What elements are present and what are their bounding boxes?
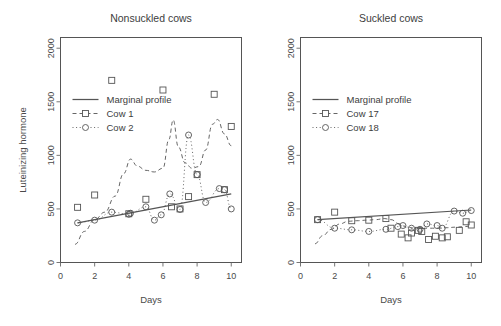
y-tick-label: 2000 <box>46 38 56 58</box>
data-point-square <box>228 123 234 129</box>
x-tick-label: 2 <box>332 271 337 281</box>
data-point-square <box>186 194 192 200</box>
x-tick-label: 8 <box>195 271 200 281</box>
data-point-square <box>426 236 432 242</box>
data-point-circle <box>167 191 173 197</box>
series-cow-2 <box>75 132 235 226</box>
data-point-circle <box>332 225 338 231</box>
legend-label: Cow 17 <box>347 108 379 119</box>
data-point-circle <box>158 212 164 218</box>
marginal-profile-line <box>78 194 232 223</box>
x-tick-label: 6 <box>160 271 165 281</box>
series-marginal-profile <box>318 210 472 220</box>
data-point-circle <box>151 217 157 223</box>
legend-key-circle <box>323 125 329 131</box>
y-tick-label: 2000 <box>286 38 296 58</box>
legend: Marginal profileCow 1Cow 2 <box>73 94 172 133</box>
legend-key-circle <box>83 125 89 131</box>
data-point-square <box>432 233 438 239</box>
data-point-circle <box>194 172 200 178</box>
legend-label: Marginal profile <box>347 94 412 105</box>
series-marginal-profile <box>78 194 232 223</box>
figure-canvas: 05001000150020000246810Nonsuckled cowsDa… <box>0 0 501 326</box>
x-tick-label: 10 <box>466 271 476 281</box>
data-point-square <box>211 91 217 97</box>
legend-label: Cow 2 <box>107 122 134 133</box>
y-tick-label: 0 <box>286 260 296 265</box>
y-axis-label: Luteinizing hormone <box>17 107 28 193</box>
y-tick-label: 500 <box>46 201 56 216</box>
y-tick-label: 1000 <box>286 145 296 165</box>
y-tick-label: 1500 <box>46 92 56 112</box>
data-point-circle <box>366 228 372 234</box>
y-tick-label: 0 <box>46 260 56 265</box>
x-tick-label: 0 <box>58 271 63 281</box>
data-point-square <box>456 227 462 233</box>
x-tick-label: 8 <box>435 271 440 281</box>
x-tick-label: 0 <box>298 271 303 281</box>
legend-key-square <box>83 111 89 117</box>
data-point-square <box>143 196 149 202</box>
data-point-square <box>160 87 166 93</box>
x-tick-label: 2 <box>92 271 97 281</box>
data-point-square <box>332 209 338 215</box>
x-tick-label: 4 <box>126 271 131 281</box>
data-point-square <box>92 192 98 198</box>
y-tick-label: 1000 <box>46 145 56 165</box>
legend: Marginal profileCow 17Cow 18 <box>313 94 412 133</box>
data-point-square <box>398 231 404 237</box>
data-point-square <box>75 204 81 210</box>
legend-label: Marginal profile <box>107 94 172 105</box>
data-point-square <box>109 77 115 83</box>
legend-label: Cow 1 <box>107 108 134 119</box>
panel-1: 05001000150020000246810Nonsuckled cowsDa… <box>17 12 241 305</box>
x-axis-label: Days <box>140 294 162 305</box>
data-point-circle <box>424 221 430 227</box>
panel-title: Suckled cows <box>359 12 423 24</box>
series-trend-curve <box>75 119 231 244</box>
marginal-profile-line <box>318 210 472 220</box>
panel-title: Nonsuckled cows <box>110 12 192 24</box>
panel-2: 05001000150020000246810Suckled cowsDaysM… <box>286 12 482 305</box>
y-tick-label: 500 <box>286 201 296 216</box>
data-point-circle <box>203 200 209 206</box>
series-trend-curve <box>78 135 232 223</box>
x-axis-label: Days <box>380 294 402 305</box>
x-tick-label: 4 <box>366 271 371 281</box>
x-tick-label: 10 <box>226 271 236 281</box>
y-tick-label: 1500 <box>286 92 296 112</box>
x-tick-label: 6 <box>400 271 405 281</box>
legend-label: Cow 18 <box>347 122 379 133</box>
legend-key-square <box>323 111 329 117</box>
two-panel-scatter-plot: 05001000150020000246810Nonsuckled cowsDa… <box>0 0 501 326</box>
data-point-circle <box>228 206 234 212</box>
